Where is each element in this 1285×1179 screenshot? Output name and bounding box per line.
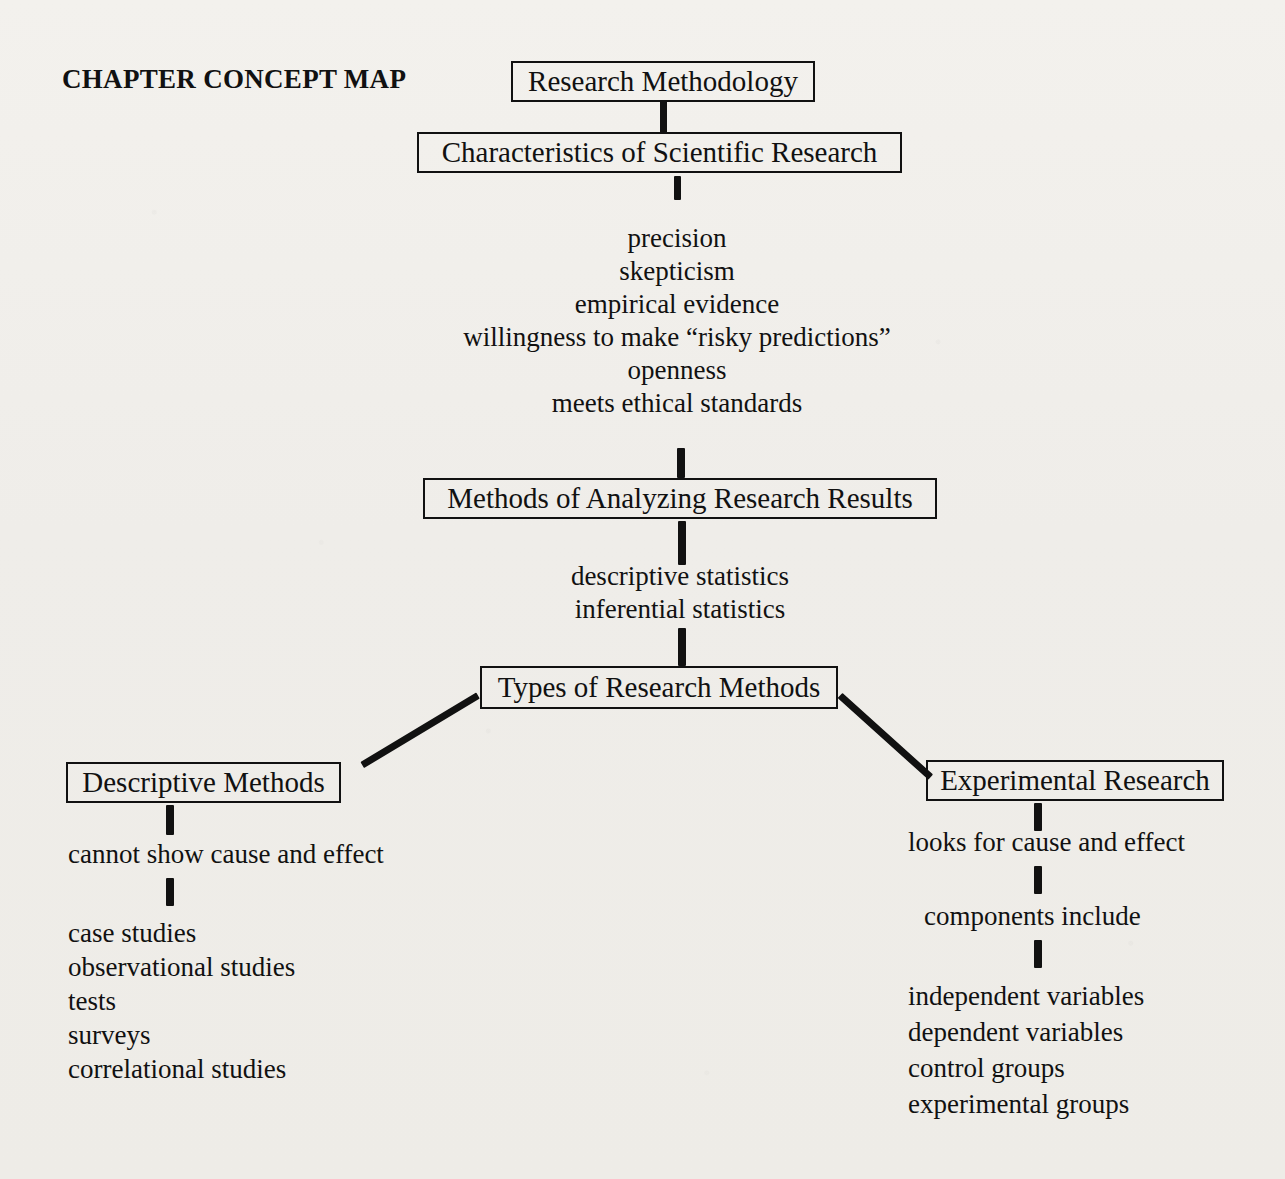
node-characteristics-of-scientific-research[interactable]: Characteristics of Scientific Research	[417, 132, 902, 173]
experimental-item: dependent variables	[908, 1014, 1144, 1050]
experimental-research-note: looks for cause and effect	[908, 826, 1185, 859]
connector-experimental-note-to-subheading	[1034, 866, 1042, 894]
connector-types-to-experimental-research	[838, 693, 933, 780]
node-methods-of-analyzing-research-results[interactable]: Methods of Analyzing Research Results	[423, 478, 937, 519]
characteristics-item: skepticism	[377, 255, 977, 288]
node-methods-of-analyzing-label: Methods of Analyzing Research Results	[447, 484, 913, 513]
descriptive-methods-list: case studies observational studies tests…	[68, 916, 295, 1086]
node-characteristics-label: Characteristics of Scientific Research	[442, 138, 878, 167]
connector-types-to-descriptive-methods	[360, 692, 479, 768]
connector-descriptive-note-to-items	[166, 878, 174, 906]
descriptive-item: observational studies	[68, 950, 295, 984]
characteristics-item: empirical evidence	[377, 288, 977, 321]
analysis-item: descriptive statistics	[420, 560, 940, 593]
characteristics-item: meets ethical standards	[377, 387, 977, 420]
experimental-item: control groups	[908, 1050, 1144, 1086]
node-research-methodology-label: Research Methodology	[528, 67, 798, 96]
connector-list-to-methods-of-analyzing	[677, 448, 685, 478]
experimental-research-list: independent variables dependent variable…	[908, 978, 1144, 1122]
experimental-item: experimental groups	[908, 1086, 1144, 1122]
experimental-note-text: looks for cause and effect	[908, 826, 1185, 859]
characteristics-list: precision skepticism empirical evidence …	[377, 222, 977, 420]
characteristics-item: precision	[377, 222, 977, 255]
analysis-statistics-list: descriptive statistics inferential stati…	[420, 560, 940, 626]
descriptive-item: surveys	[68, 1018, 295, 1052]
experimental-components-subheading: components include	[924, 900, 1141, 933]
concept-map-page: CHAPTER CONCEPT MAP Research Methodology…	[0, 0, 1285, 1179]
connector-statistics-to-types	[678, 628, 686, 666]
descriptive-methods-note: cannot show cause and effect	[68, 838, 384, 871]
node-types-of-research-methods-label: Types of Research Methods	[498, 673, 821, 702]
descriptive-note-text: cannot show cause and effect	[68, 838, 384, 871]
page-title: CHAPTER CONCEPT MAP	[62, 64, 406, 95]
node-experimental-research[interactable]: Experimental Research	[926, 760, 1224, 801]
characteristics-item: openness	[377, 354, 977, 387]
experimental-item: independent variables	[908, 978, 1144, 1014]
characteristics-item: willingness to make “risky predictions”	[377, 321, 977, 354]
analysis-item: inferential statistics	[420, 593, 940, 626]
node-experimental-research-label: Experimental Research	[940, 766, 1210, 795]
connector-methodology-to-characteristics	[660, 101, 667, 133]
descriptive-item: case studies	[68, 916, 295, 950]
node-types-of-research-methods[interactable]: Types of Research Methods	[480, 666, 838, 709]
node-descriptive-methods-label: Descriptive Methods	[82, 768, 324, 797]
node-research-methodology[interactable]: Research Methodology	[511, 61, 815, 102]
experimental-subheading-text: components include	[924, 900, 1141, 933]
connector-methods-to-statistics	[678, 521, 686, 565]
descriptive-item: correlational studies	[68, 1052, 295, 1086]
connector-characteristics-to-list	[674, 176, 681, 200]
connector-descriptive-to-note	[166, 805, 174, 835]
node-descriptive-methods[interactable]: Descriptive Methods	[66, 762, 341, 803]
descriptive-item: tests	[68, 984, 295, 1018]
connector-subheading-to-experimental-items	[1034, 940, 1042, 968]
